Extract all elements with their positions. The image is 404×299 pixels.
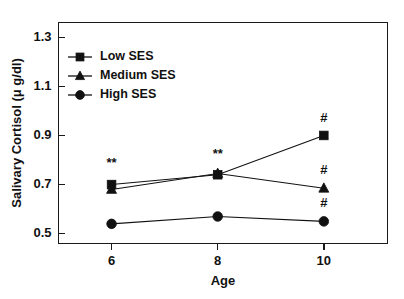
annotation-hash-3: # (320, 162, 328, 177)
salivary-cortisol-line-chart: 0.50.70.91.11.3 6810 ****### Low SESMedi… (0, 0, 404, 299)
x-axis-ticks (112, 244, 324, 250)
x-tick-label-8: 8 (214, 253, 221, 268)
y-tick-label-1.3: 1.3 (33, 29, 51, 44)
legend-label-high-ses: High SES (100, 87, 156, 101)
annotation-asterisks-1: ** (213, 146, 224, 161)
data-point-high-ses-age-10 (319, 217, 329, 227)
y-tick-label-0.5: 0.5 (33, 225, 51, 240)
y-axis-ticks (59, 37, 65, 233)
legend-label-low-ses: Low SES (100, 49, 153, 63)
annotation-hash-4: # (320, 195, 328, 210)
x-tick-label-10: 10 (317, 253, 331, 268)
data-point-high-ses-age-6 (107, 219, 117, 229)
y-tick-label-1.1: 1.1 (33, 78, 51, 93)
y-axis-title: Salivary Cortisol (μ g/dl) (9, 58, 24, 208)
annotation-group: ****### (107, 110, 329, 210)
annotation-hash-2: # (320, 110, 328, 125)
y-axis-tick-labels: 0.50.70.91.11.3 (33, 29, 51, 240)
y-tick-label-0.9: 0.9 (33, 127, 51, 142)
legend-marker-medium-ses (75, 71, 84, 80)
legend-marker-high-ses (76, 91, 85, 100)
series-medium-ses (107, 168, 329, 193)
chart-figure: 0.50.70.91.11.3 6810 ****### Low SESMedi… (0, 0, 404, 299)
legend: Low SESMedium SESHigh SES (68, 49, 176, 101)
legend-item-medium-ses: Medium SES (68, 68, 176, 82)
y-tick-label-0.7: 0.7 (33, 176, 51, 191)
data-point-low-ses-age-10 (320, 131, 329, 140)
data-point-high-ses-age-8 (213, 212, 223, 222)
legend-item-low-ses: Low SES (68, 49, 153, 63)
series-high-ses (107, 212, 329, 229)
x-tick-label-6: 6 (108, 253, 115, 268)
x-axis-tick-labels: 6810 (108, 253, 331, 268)
legend-item-high-ses: High SES (68, 87, 156, 101)
legend-label-medium-ses: Medium SES (100, 68, 176, 82)
x-axis-title: Age (211, 273, 236, 288)
annotation-asterisks-0: ** (107, 155, 118, 170)
legend-marker-low-ses (76, 53, 84, 61)
